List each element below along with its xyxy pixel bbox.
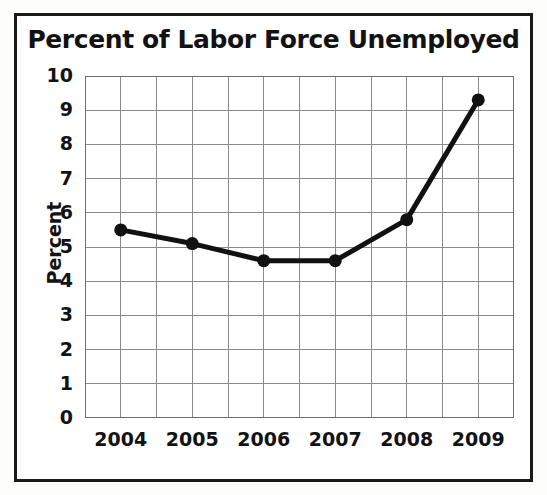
y-axis-tick-label: 10 bbox=[3, 66, 73, 85]
data-point-marker bbox=[114, 223, 127, 236]
figure-container: Percent of Labor Force Unemployed Percen… bbox=[0, 0, 547, 495]
data-point-marker bbox=[400, 213, 413, 226]
data-point-marker bbox=[257, 254, 270, 267]
line-chart-svg bbox=[85, 76, 514, 418]
y-axis-tick-label: 5 bbox=[3, 237, 73, 256]
y-axis-tick-label: 7 bbox=[3, 169, 73, 188]
y-axis-tick-label: 3 bbox=[3, 305, 73, 324]
data-point-marker bbox=[186, 237, 199, 250]
data-point-marker bbox=[329, 254, 342, 267]
data-point-marker bbox=[472, 93, 485, 106]
y-axis-tick-label: 1 bbox=[3, 374, 73, 393]
grid-lines bbox=[85, 76, 514, 418]
y-axis-tick-label: 4 bbox=[3, 271, 73, 290]
y-axis-tick-label: 9 bbox=[3, 100, 73, 119]
chart-title: Percent of Labor Force Unemployed bbox=[20, 25, 527, 54]
plot-area bbox=[85, 76, 514, 418]
y-axis-tick-label: 6 bbox=[3, 203, 73, 222]
y-axis-tick-label: 0 bbox=[3, 408, 73, 427]
x-axis-tick-label: 2009 bbox=[433, 430, 523, 449]
y-axis-tick-label: 2 bbox=[3, 340, 73, 359]
y-axis-tick-label: 8 bbox=[3, 134, 73, 153]
